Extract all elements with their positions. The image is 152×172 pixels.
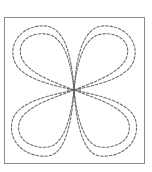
flower-diagram [0, 0, 152, 172]
